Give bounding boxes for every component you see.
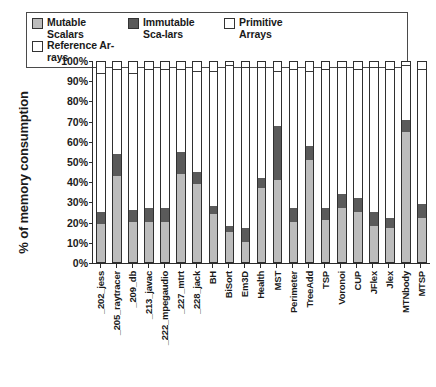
bar-segment-immutable-scalars [258, 178, 266, 188]
bar-slot [334, 61, 350, 263]
y-axis-tick-mark [89, 223, 93, 224]
stacked-bar[interactable] [241, 61, 251, 263]
bar-segment-primitive-arrays [113, 70, 121, 154]
x-axis-label-cell: MTNbody [397, 269, 413, 387]
bar-segment-mutable-scalars [290, 222, 298, 262]
stacked-bar[interactable] [321, 61, 331, 263]
stacked-bar[interactable] [273, 61, 283, 263]
bar-segment-primitive-arrays [226, 66, 234, 226]
x-axis-tick-mark [420, 263, 421, 268]
x-axis-tick-mark [228, 263, 229, 268]
x-axis-label-cell: JFlex [365, 269, 381, 387]
bar-segment-immutable-scalars [322, 208, 330, 220]
stacked-bar[interactable] [417, 61, 427, 263]
stacked-bar[interactable] [385, 61, 395, 263]
bar-segment-reference-arrays [161, 62, 169, 70]
stacked-bar[interactable] [209, 61, 219, 263]
bar-segment-immutable-scalars [370, 212, 378, 226]
bar-segment-primitive-arrays [97, 74, 105, 212]
x-axis-tick-mark [276, 263, 277, 268]
x-axis-tick-label: TSP [319, 271, 330, 289]
bar-segment-immutable-scalars [402, 120, 410, 132]
bar-segment-primitive-arrays [370, 68, 378, 212]
x-axis-label-cell: BiSort [220, 269, 236, 387]
x-axis-label-cell: Voronoi [333, 269, 349, 387]
bar-segment-immutable-scalars [274, 126, 282, 180]
bar-segment-primitive-arrays [402, 66, 410, 120]
x-axis-label-cell: TSP [317, 269, 333, 387]
x-axis-tick-label: Voronoi [335, 271, 346, 305]
bar-segment-mutable-scalars [145, 222, 153, 262]
y-axis-tick-label: 100% [61, 55, 88, 67]
stacked-bar[interactable] [305, 61, 315, 263]
bar-segment-mutable-scalars [274, 180, 282, 262]
stacked-bar[interactable] [289, 61, 299, 263]
y-axis-tick-label: 20% [67, 217, 88, 229]
bar-segment-immutable-scalars [145, 208, 153, 222]
x-axis-tick-mark [260, 263, 261, 268]
y-axis-tick-mark [89, 61, 93, 62]
bar-segment-mutable-scalars [370, 226, 378, 262]
bar-segment-primitive-arrays [338, 68, 346, 194]
bar-segment-reference-arrays [97, 62, 105, 74]
x-axis-tick-label: MTSP [415, 271, 426, 297]
stacked-bar[interactable] [401, 61, 411, 263]
x-axis-label-cell: Em3D [236, 269, 252, 387]
bar-slot [109, 61, 125, 263]
stacked-bar[interactable] [176, 61, 186, 263]
stacked-bar[interactable] [369, 61, 379, 263]
bar-segment-primitive-arrays [354, 70, 362, 198]
y-axis-tick-label: 30% [67, 196, 88, 208]
bar-slot [350, 61, 366, 263]
legend-entry-primitive-arrays: Primitive Arrays [224, 17, 313, 40]
x-axis-tick-label: _205_raytracer [111, 271, 122, 335]
x-axis-tick-label: _228_jack [191, 271, 202, 314]
x-axis-label-cell: BH [204, 269, 220, 387]
stacked-bar[interactable] [192, 61, 202, 263]
x-axis-tick-mark [148, 263, 149, 268]
bar-segment-reference-arrays [177, 62, 185, 70]
stacked-bar[interactable] [128, 61, 138, 263]
stacked-bar[interactable] [144, 61, 154, 263]
stacked-bar[interactable] [160, 61, 170, 263]
x-axis-label-cell: _228_jack [188, 269, 204, 387]
bar-segment-immutable-scalars [210, 206, 218, 214]
y-axis-tick-label: 10% [67, 237, 88, 249]
bar-slot [253, 61, 269, 263]
bar-segment-reference-arrays [290, 62, 298, 70]
bar-segment-mutable-scalars [354, 212, 362, 262]
x-axis-label-cell: MST [269, 269, 285, 387]
bar-segment-mutable-scalars [306, 160, 314, 262]
stacked-bar[interactable] [353, 61, 363, 263]
x-axis-tick-label: MST [271, 271, 282, 290]
bar-slot [221, 61, 237, 263]
bar-group [93, 61, 430, 263]
x-axis-tick-label: Health [255, 271, 266, 299]
bar-slot [286, 61, 302, 263]
legend-swatch-reference-arrays [32, 41, 43, 52]
stacked-bar[interactable] [257, 61, 267, 263]
y-axis-tick-mark [89, 202, 93, 203]
bar-segment-reference-arrays [306, 62, 314, 72]
legend-label-mutable-scalars: Mutable Scalars [47, 17, 121, 40]
x-axis-tick-mark [372, 263, 373, 268]
x-axis-label-cell: MTSP [413, 269, 429, 387]
stacked-bar[interactable] [337, 61, 347, 263]
bar-segment-reference-arrays [210, 62, 218, 72]
bar-slot [270, 61, 286, 263]
stacked-bar[interactable] [225, 61, 235, 263]
bar-segment-primitive-arrays [322, 70, 330, 208]
bar-slot [173, 61, 189, 263]
stacked-bar[interactable] [96, 61, 106, 263]
x-axis-label-cell: _202_jess [92, 269, 108, 387]
y-axis-tick-mark [89, 101, 93, 102]
stacked-bar[interactable] [112, 61, 122, 263]
bar-segment-mutable-scalars [161, 222, 169, 262]
plot-axes [92, 61, 430, 264]
x-axis-label-cell: CUP [349, 269, 365, 387]
bar-segment-mutable-scalars [258, 188, 266, 262]
x-axis-tick-mark [292, 263, 293, 268]
bar-slot [189, 61, 205, 263]
x-axis-tick-mark [212, 263, 213, 268]
y-axis-tick-mark [89, 162, 93, 163]
